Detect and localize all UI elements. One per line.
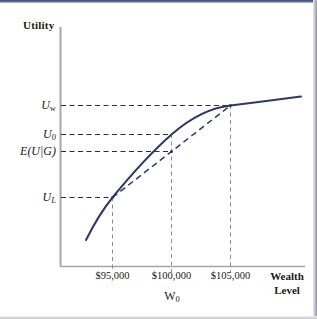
utility-function-figure: Utility Uw U0 E(U|G) UL $95,000 $100,000… — [0, 0, 317, 319]
y-tick-label-uw: Uw — [18, 99, 56, 113]
x-tick-label-100000: $100,000 — [138, 271, 205, 282]
point-marker-eug — [170, 150, 173, 153]
annotation-w0-main: W — [164, 289, 175, 303]
y-tick-label-expected-utility: E(U|G) — [4, 145, 56, 157]
x-axis-title-line2: Level — [274, 284, 300, 296]
y-tick-ul-sub: L — [51, 195, 56, 205]
y-tick-u0-sub: 0 — [52, 132, 56, 142]
y-tick-ul-main: U — [43, 190, 52, 204]
utility-curve-path — [86, 97, 301, 241]
y-tick-uw-sub: w — [50, 103, 56, 113]
y-tick-label-u0: U0 — [18, 128, 56, 142]
point-marker-ul — [111, 196, 114, 199]
y-tick-uw-main: U — [41, 98, 50, 112]
annotation-w0: W0 — [150, 290, 194, 304]
x-tick-label-105000: $105,000 — [197, 271, 264, 282]
annotation-w0-sub: 0 — [176, 294, 180, 304]
x-axis-title: WealthLevel — [262, 270, 312, 298]
point-marker-uw — [229, 104, 232, 107]
y-tick-label-ul: UL — [18, 191, 56, 205]
y-axis-title: Utility — [23, 20, 54, 31]
y-tick-u0-main: U — [43, 127, 52, 141]
x-tick-label-95000: $95,000 — [82, 271, 143, 282]
x-axis-title-line1: Wealth — [270, 270, 304, 282]
